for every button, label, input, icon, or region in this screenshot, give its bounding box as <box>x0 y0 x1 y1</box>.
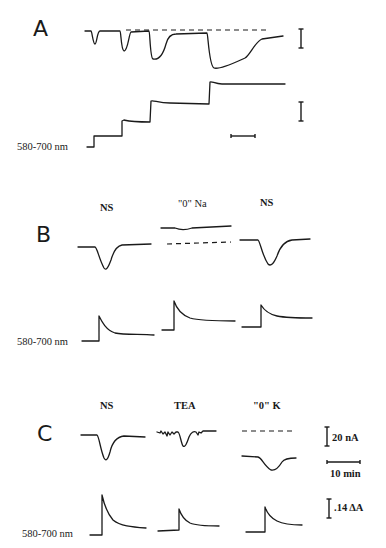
panel-a-absorbance-scale-bar <box>299 102 304 121</box>
panel-c-condition-1: NS <box>100 400 114 411</box>
panel-c-condition-3: "0" K <box>253 400 282 411</box>
panel-c-absorbance-trace-tea <box>158 509 219 531</box>
panel-c-condition-2: TEA <box>174 400 196 411</box>
panel-c-letter: C <box>37 421 52 446</box>
panel-c-current-trace-tea <box>157 431 216 446</box>
panel-c-absorbance-trace-zero-k <box>246 507 302 532</box>
panel-c-absorbance-scale-label: .14 ΔA <box>334 502 364 513</box>
panel-b-condition-2: "0" Na <box>178 198 207 209</box>
panel-b-wavelength-label: 580-700 nm <box>17 336 68 347</box>
panel-c-current-trace-zero-k <box>242 456 296 470</box>
panel-b-current-trace-ns2 <box>240 239 310 265</box>
panel-a-letter: A <box>33 16 48 41</box>
panel-a-wavelength-label: 580-700 nm <box>17 141 68 152</box>
panel-c-absorbance-trace-ns <box>90 495 146 535</box>
panel-c-time-scale-label: 10 min <box>330 468 361 479</box>
panel-b-current-trace-zero-na <box>161 226 231 230</box>
figure-canvas: A 580-700 nm B NS "0" Na NS 580-700 nm C… <box>0 0 386 548</box>
panel-a-current-scale-bar <box>299 29 304 48</box>
panel-b-condition-1: NS <box>100 202 114 213</box>
panel-a-current-trace <box>85 31 283 68</box>
panel-b-current-trace-ns1 <box>78 244 151 269</box>
panel-b-absorbance-trace-ns1 <box>82 316 154 341</box>
panel-b-zero-current-line <box>167 242 231 244</box>
panel-b-absorbance-trace-ns2 <box>242 305 312 327</box>
panel-c-current-scale-bar <box>325 427 330 446</box>
panel-c-current-trace-ns <box>81 435 145 460</box>
panel-c-current-scale-label: 20 nA <box>332 432 359 443</box>
panel-c-wavelength-label: 580-700 nm <box>22 528 73 539</box>
panel-a-time-scale-bar <box>231 134 255 138</box>
panel-c-absorbance-scale-bar <box>327 499 332 518</box>
panel-b-condition-3: NS <box>260 197 274 208</box>
panel-b-letter: B <box>36 222 51 247</box>
panel-b-absorbance-trace-zero-na <box>162 301 235 330</box>
panel-c-time-scale-bar <box>327 460 360 464</box>
